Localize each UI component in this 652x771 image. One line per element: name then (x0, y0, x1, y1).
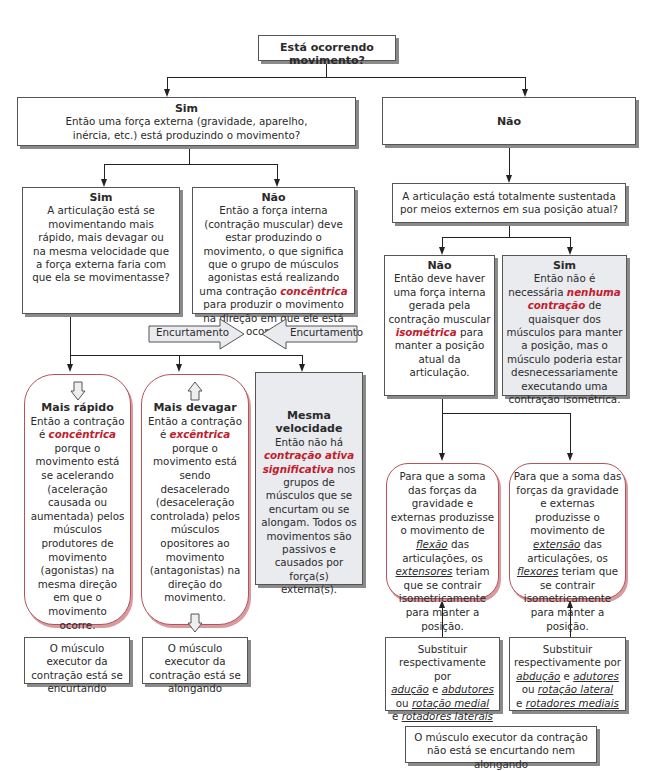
arrowhead (567, 247, 573, 255)
speed-question-box: Sim A articulação está se movimentando m… (22, 187, 180, 314)
connector (570, 237, 571, 247)
connector (509, 145, 510, 175)
root-question: Está ocorrendo movimento? (280, 41, 374, 67)
isometric-box: Não Então deve haver uma força interna g… (384, 255, 495, 396)
connector (70, 314, 71, 366)
internal-force-box: Não Então a força interna (contração mus… (192, 187, 355, 314)
isometric-title: Não (388, 259, 491, 272)
connector (167, 77, 168, 89)
arrowhead (567, 453, 573, 461)
flexion-box: Para que a soma das forças da gravidade … (386, 463, 499, 599)
isometric-note-box: O músculo executor da contração não está… (405, 726, 597, 763)
speed-question-text: A articulação está se movimentando mais … (31, 204, 171, 284)
hollow-arrow-down-icon (187, 613, 203, 633)
connector (277, 164, 278, 179)
same-speed-box: Mesma velocidade Então não há contração … (255, 372, 363, 585)
external-force-text: Então uma força externa (gravidade, apar… (22, 115, 351, 142)
arrowhead (439, 453, 445, 461)
connector (442, 413, 571, 414)
connector (442, 237, 443, 247)
lengthening-note-box: O músculo executor da contração está se … (142, 637, 248, 684)
shortening-note: O músculo executor da contração está se … (31, 642, 123, 694)
lengthening-note: O músculo executor da contração está se … (149, 642, 241, 694)
shortening-note-box: O músculo executor da contração está se … (24, 637, 130, 684)
connector (167, 77, 526, 78)
concentric-highlight: concêntrica (280, 285, 348, 297)
slower-box: Mais devagar Então a contração é excêntr… (141, 374, 249, 625)
connector (570, 413, 571, 453)
slower-text: porque o movimento está sendo desacelera… (146, 442, 244, 605)
connector (70, 355, 303, 356)
isometric-note: O músculo executor da contração não está… (414, 731, 588, 770)
arrowhead (164, 89, 170, 97)
root-question-box: Está ocorrendo movimento? (258, 35, 396, 61)
connector (189, 146, 190, 164)
connector (509, 223, 510, 237)
support-question: A articulação está totalmente sustentada… (400, 190, 618, 215)
connector (104, 164, 105, 179)
arrowhead (506, 175, 512, 183)
arrowhead (101, 179, 107, 187)
no-contraction-box: Sim Então não é necessária nenhuma contr… (502, 255, 627, 396)
connector (179, 355, 180, 364)
arrowhead (439, 247, 445, 255)
arrowhead (299, 364, 305, 372)
arrowhead (67, 364, 73, 372)
faster-box: Mais rápido Então a contração é concêntr… (24, 374, 131, 625)
slower-title: Mais devagar (146, 401, 244, 415)
hollow-arrow-down-icon (70, 381, 86, 401)
faster-text: porque o movimento está se acelerando (a… (29, 442, 126, 632)
connector (104, 164, 278, 165)
faster-title: Mais rápido (29, 401, 126, 415)
connector (442, 237, 571, 238)
no-movement-title: Não (497, 115, 521, 128)
extension-box: Para que a soma das forças da gravidade … (509, 463, 626, 599)
same-speed-title: Mesma velocidade (260, 409, 358, 436)
external-force-title: Sim (22, 102, 351, 115)
eccentric-highlight: excêntrica (170, 428, 231, 440)
arrowhead (176, 364, 182, 372)
substitute-left-box: Substituir respectivamente por adução e … (385, 637, 500, 711)
shortening-label-left: Encurtamento (156, 326, 229, 338)
external-force-box: Sim Então uma força externa (gravidade, … (17, 97, 356, 146)
arrowhead (522, 89, 528, 97)
hollow-arrow-up-icon (187, 381, 203, 401)
connector (442, 396, 443, 453)
concentric-highlight: concêntrica (49, 428, 117, 440)
speed-question-title: Sim (31, 191, 171, 204)
substitute-right-box: Substituir respectivamente por abdução e… (509, 637, 626, 711)
shortening-label-right: Encurtamento (290, 326, 363, 338)
connector (525, 77, 526, 89)
isometric-highlight: isométrica (396, 326, 457, 338)
support-question-box: A articulação está totalmente sustentada… (392, 183, 626, 223)
no-contraction-title: Sim (506, 259, 623, 272)
connector (302, 355, 303, 364)
no-movement-box: Não (382, 97, 636, 145)
arrowhead (274, 179, 280, 187)
internal-force-title: Não (197, 191, 350, 204)
